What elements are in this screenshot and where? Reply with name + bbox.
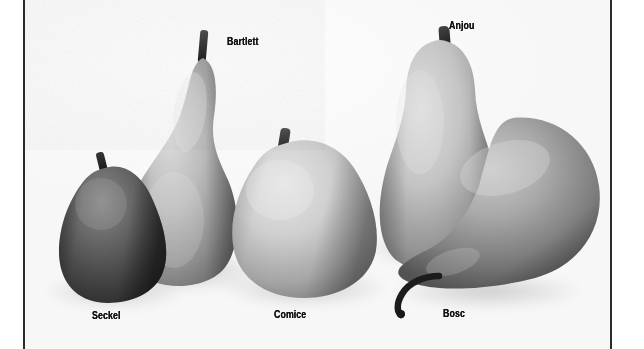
pear-photograph (25, 0, 610, 349)
label-comice: Comice (274, 310, 306, 320)
label-anjou: Anjou (449, 21, 474, 31)
pear-varieties-plate: Bartlett Anjou Seckel Comice Bosc (0, 0, 644, 349)
right-frame-rule (610, 0, 612, 349)
label-bosc: Bosc (443, 309, 465, 319)
seckel-body (53, 152, 177, 306)
label-bartlett: Bartlett (227, 37, 259, 47)
pear-bosc (393, 112, 605, 298)
pear-comice (228, 128, 386, 300)
label-seckel: Seckel (92, 311, 120, 321)
pear-seckel (53, 152, 177, 306)
bosc-stem (391, 270, 447, 318)
comice-body (228, 128, 386, 300)
